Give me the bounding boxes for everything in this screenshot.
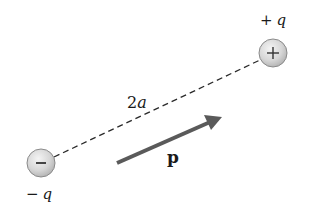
negative-charge-label: −q: [26, 185, 52, 203]
diagram-canvas: +q −q 2a p: [0, 0, 314, 217]
separation-label: 2a: [127, 93, 147, 112]
positive-charge: [259, 39, 287, 67]
separation-line: [54, 60, 260, 157]
dipole-moment-label: p: [167, 147, 179, 167]
positive-charge-label: +q: [260, 11, 286, 29]
dipole-diagram: +q −q 2a p: [0, 0, 314, 217]
negative-charge: [27, 149, 55, 177]
